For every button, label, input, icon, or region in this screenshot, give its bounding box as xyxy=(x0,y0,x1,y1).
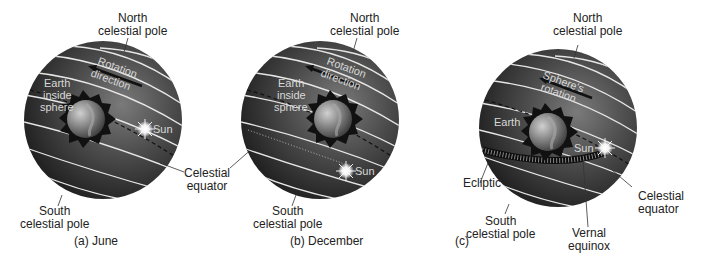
earth-label-line1: Earth xyxy=(44,77,70,89)
equinox-line2: equinox xyxy=(568,240,610,253)
sun-icon xyxy=(336,161,356,181)
earth-label: Earth xyxy=(494,116,520,128)
north-pole-label-c: North celestial pole xyxy=(553,12,622,38)
panel-b-sphere: Sun Rotation direction Earth inside sphe… xyxy=(241,38,403,206)
panel-c-sphere: Sun Sphere's rotation Earth xyxy=(479,45,641,227)
sun-icon xyxy=(595,138,615,158)
sun-label: Sun xyxy=(574,142,594,154)
sun-label: Sun xyxy=(153,123,173,135)
north-pole-line2: celestial pole xyxy=(330,25,399,38)
earth-label-line1: Earth xyxy=(278,77,304,89)
sun-label: Sun xyxy=(355,165,375,177)
earth-label-line2: inside xyxy=(277,89,306,101)
caption-a: (a) June xyxy=(74,234,118,248)
equator-line2: equator xyxy=(638,203,684,216)
south-pole-label-c: South celestial pole xyxy=(466,215,535,241)
ecliptic-label: Ecliptic xyxy=(463,177,501,190)
south-pole-label-b: South celestial pole xyxy=(253,205,322,231)
celestial-sphere-diagram: Sun Rotation direction Earth inside sphe… xyxy=(0,0,702,257)
caption-c: (c) xyxy=(455,234,469,248)
celestial-equator-label-c: Celestial equator xyxy=(638,190,684,216)
earth-label-line3: sphere xyxy=(274,101,308,113)
equator-line2: equator xyxy=(184,180,230,193)
south-pole-label-a: South celestial pole xyxy=(20,205,89,231)
south-pole-line2: celestial pole xyxy=(20,218,89,231)
vernal-equinox-label: Vernal equinox xyxy=(568,227,610,253)
north-pole-label-b: North celestial pole xyxy=(330,12,399,38)
south-pole-line2: celestial pole xyxy=(253,218,322,231)
north-pole-line2: celestial pole xyxy=(98,25,167,38)
earth-label-line2: inside xyxy=(43,89,72,101)
north-pole-line2: celestial pole xyxy=(553,25,622,38)
sun-icon xyxy=(135,119,155,139)
north-pole-label-a: North celestial pole xyxy=(98,12,167,38)
caption-b: (b) December xyxy=(290,234,363,248)
south-pole-line2: celestial pole xyxy=(466,228,535,241)
earth-label-line3: sphere xyxy=(40,101,74,113)
celestial-equator-label-a: Celestial equator xyxy=(184,167,230,193)
